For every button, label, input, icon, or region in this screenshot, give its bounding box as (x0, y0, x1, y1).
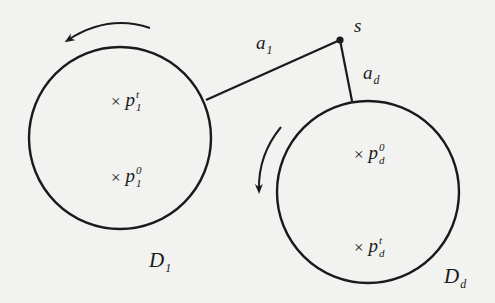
point-pd-t: × p td (354, 236, 385, 258)
edge-ad-label: ad (363, 63, 380, 86)
disk-dd-label: Dd (444, 266, 466, 290)
point-pd-0: × p 0d (354, 143, 385, 165)
point-p1-0: × p 01 (111, 166, 142, 188)
diagram-graphics (0, 0, 495, 303)
source-point-dot (336, 36, 343, 43)
disk-d1-label: D1 (149, 250, 171, 274)
disk-d1-circle (29, 47, 211, 229)
edge-a1-line (206, 40, 340, 100)
source-point-label: s (354, 16, 361, 35)
edge-ad-line (340, 40, 352, 101)
point-p1-t: × p t1 (111, 90, 142, 112)
rotation-arrow-d1-icon (68, 23, 150, 40)
diagram-canvas: s a1 ad × p t1 × p 01 D1 × p 0d × p td D… (0, 0, 495, 303)
edge-a1-label: a1 (256, 33, 273, 56)
